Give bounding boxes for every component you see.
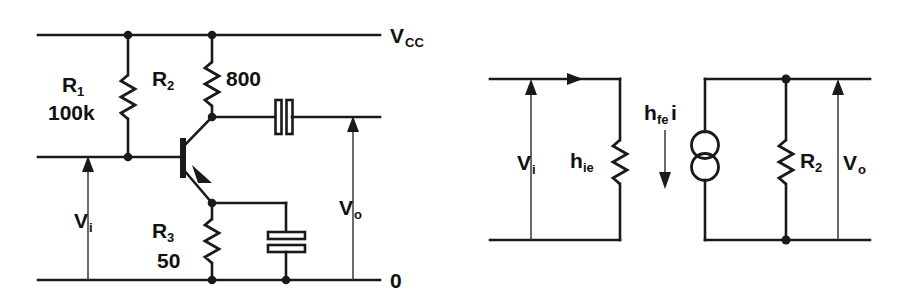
ground-label: 0 (390, 269, 402, 292)
r2-value-label: 800 (226, 67, 261, 90)
right-circuit-group: h ie V i h fe i R 2 V o (490, 73, 870, 245)
input-current-arrowhead (567, 73, 583, 85)
equiv-vo-label: V (843, 151, 857, 174)
equiv-vi-label-subscript: i (532, 162, 536, 177)
transistor-collector-lead (183, 117, 212, 147)
vcc-label: V (390, 24, 404, 47)
r3-resistor-zigzag (205, 219, 219, 263)
bypass-capacitor-plate-top (268, 232, 305, 239)
r1-ref-subscript: 1 (77, 84, 84, 99)
coupling-capacitor-plate-left (276, 100, 282, 134)
hie-ref-label: h (570, 149, 583, 172)
hie-resistor-zigzag (613, 140, 627, 184)
hie-ref-subscript: ie (583, 160, 594, 175)
vo-label: V (339, 196, 353, 219)
vi-label-subscript: i (89, 220, 93, 235)
r2-resistor-zigzag (205, 62, 219, 106)
r3-ref-subscript: 3 (167, 230, 174, 245)
equiv-r2-resistor-zigzag (779, 140, 793, 184)
hfe-current-label-suffix: i (671, 101, 677, 124)
left-circuit-group: V CC R 1 100k R 2 800 (38, 24, 424, 292)
hfe-current-label-subscript: fe (657, 112, 669, 127)
equiv-r2-ref-subscript: 2 (815, 160, 822, 175)
junction-dot-base (124, 153, 133, 162)
junction-dot-ground-r3 (208, 276, 217, 285)
vo-arrowhead (347, 116, 359, 132)
vo-label-subscript: o (354, 207, 362, 222)
r1-resistor-zigzag (121, 75, 135, 119)
transistor-emitter-arrow (192, 165, 212, 183)
equiv-vi-arrowhead (525, 79, 537, 95)
source-current-arrowhead (659, 172, 671, 189)
hfe-current-label: h (644, 101, 657, 124)
equiv-vi-label: V (517, 151, 531, 174)
r2-ref-label: R (152, 67, 167, 90)
r3-ref-label: R (152, 219, 167, 242)
circuit-figure: V CC R 1 100k R 2 800 (0, 0, 910, 299)
vcc-label-subscript: CC (405, 35, 424, 50)
r2-ref-subscript: 2 (167, 78, 174, 93)
circuit-diagram-canvas: V CC R 1 100k R 2 800 (0, 0, 910, 299)
r3-value-label: 50 (157, 249, 180, 272)
r1-value-label: 100k (48, 101, 95, 124)
equiv-vo-arrowhead (832, 79, 844, 95)
junction-dot-equiv-output-bottom (782, 236, 791, 245)
equiv-r2-ref-label: R (800, 149, 815, 172)
vi-arrowhead (82, 156, 94, 172)
r1-ref-label: R (62, 73, 77, 96)
junction-dot-ground-cap (282, 276, 291, 285)
vi-label: V (74, 209, 88, 232)
equiv-vo-label-subscript: o (858, 162, 866, 177)
